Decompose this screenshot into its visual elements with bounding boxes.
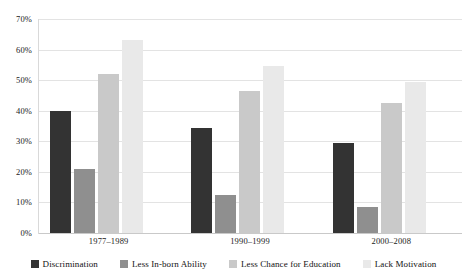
legend-item[interactable]: Less In-born Ability (120, 259, 207, 269)
bar-groups (38, 19, 462, 233)
bar (50, 111, 71, 233)
legend-swatch-icon (120, 260, 128, 268)
legend-label: Lack Motivation (375, 259, 437, 269)
legend-label: Less Chance for Education (241, 259, 341, 269)
legend-label: Less In-born Ability (132, 259, 207, 269)
bar-group (333, 19, 426, 233)
legend-item[interactable]: Lack Motivation (363, 259, 437, 269)
y-axis-tick-label: 50% (16, 75, 32, 85)
legend-label: Discrimination (43, 259, 98, 269)
y-axis-line (38, 19, 39, 234)
bar (191, 128, 212, 233)
y-axis-tick-label: 10% (16, 197, 32, 207)
y-axis-tick-label: 70% (16, 14, 32, 24)
bar (74, 169, 95, 233)
legend-item[interactable]: Discrimination (31, 259, 98, 269)
y-axis-tick-label: 60% (16, 45, 32, 55)
bar (357, 207, 378, 233)
plot-area (38, 19, 462, 233)
y-axis-labels: 0%10%20%30%40%50%60%70% (0, 0, 36, 276)
axis-baseline (38, 233, 462, 234)
x-axis-category-label: 1977–1989 (38, 236, 179, 246)
x-axis-category-label: 2000–2008 (321, 236, 462, 246)
bar (98, 74, 119, 233)
legend-item[interactable]: Less Chance for Education (229, 259, 341, 269)
chart-container: 0%10%20%30%40%50%60%70% 1977–19891990–19… (0, 0, 467, 276)
bar (263, 66, 284, 233)
bar-group (191, 19, 284, 233)
y-axis-tick-label: 40% (16, 106, 32, 116)
legend-swatch-icon (31, 260, 39, 268)
y-axis-tick-label: 20% (16, 167, 32, 177)
x-axis-labels: 1977–19891990–19992000–2008 (38, 236, 462, 252)
bar (405, 82, 426, 233)
legend-swatch-icon (363, 260, 371, 268)
y-axis-tick-label: 0% (20, 228, 32, 238)
bar-group (50, 19, 143, 233)
bar (215, 195, 236, 233)
legend-swatch-icon (229, 260, 237, 268)
bar (122, 40, 143, 233)
bar (381, 103, 402, 233)
y-axis-tick-label: 30% (16, 136, 32, 146)
bar (333, 143, 354, 233)
chart-legend: DiscriminationLess In-born AbilityLess C… (0, 255, 467, 273)
x-axis-category-label: 1990–1999 (179, 236, 320, 246)
bar (239, 91, 260, 233)
